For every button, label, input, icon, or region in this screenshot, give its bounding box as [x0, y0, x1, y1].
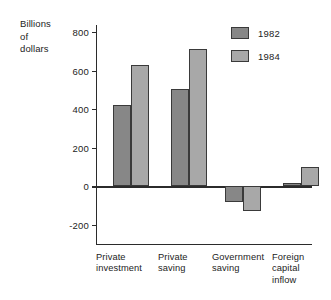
- x-axis-category-label: Foreign capital inflow: [272, 252, 304, 286]
- zero-baseline: [96, 186, 312, 187]
- bar: [243, 186, 261, 210]
- bar-chart-figure: Billions of dollars 8006004002000-200 Pr…: [0, 0, 331, 300]
- x-axis-category-label: Government saving: [212, 252, 264, 275]
- y-tick-mark: [92, 71, 97, 72]
- legend: 19821984: [231, 24, 280, 70]
- y-tick-label: 400: [73, 104, 89, 115]
- y-tick-mark: [92, 109, 97, 110]
- y-tick-label: 0: [84, 181, 89, 192]
- legend-item: 1984: [231, 47, 280, 65]
- y-tick-mark: [92, 32, 97, 33]
- legend-swatch: [231, 50, 249, 62]
- x-axis-category-label: Private investment: [96, 252, 142, 275]
- y-tick-label: 800: [73, 27, 89, 38]
- y-tick-label: 600: [73, 65, 89, 76]
- bar: [189, 49, 207, 186]
- y-axis-line: [96, 25, 97, 245]
- y-tick-label: -200: [69, 220, 89, 231]
- legend-label: 1982: [258, 28, 280, 39]
- y-tick-mark: [92, 186, 97, 187]
- bar: [225, 186, 243, 201]
- bar: [301, 167, 319, 186]
- x-axis-frame-line: [96, 244, 312, 245]
- bar: [171, 89, 189, 186]
- bar: [131, 65, 149, 187]
- y-axis-unit-label: Billions of dollars: [20, 18, 51, 56]
- legend-swatch: [231, 27, 249, 39]
- x-axis-category-label: Private saving: [158, 252, 188, 275]
- bar: [113, 105, 131, 186]
- bar: [283, 183, 301, 187]
- y-tick-label: 200: [73, 142, 89, 153]
- legend-item: 1982: [231, 24, 280, 42]
- legend-label: 1984: [258, 51, 280, 62]
- y-tick-mark: [92, 225, 97, 226]
- y-tick-mark: [92, 148, 97, 149]
